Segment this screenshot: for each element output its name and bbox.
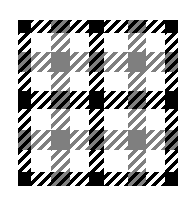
pattern-cell — [31, 72, 51, 91]
pattern-cell — [70, 172, 89, 186]
pattern-cell — [128, 72, 146, 91]
pattern-cell — [70, 33, 89, 52]
pattern-cell — [31, 150, 51, 172]
pattern-cell — [89, 52, 104, 72]
pattern-cell — [70, 20, 89, 33]
pattern-cell — [18, 91, 31, 109]
pattern-cell — [165, 150, 178, 172]
pattern-cell — [104, 91, 128, 109]
pattern-cell — [31, 33, 51, 52]
pattern-cell — [89, 72, 104, 91]
pattern-cell — [31, 109, 51, 130]
pattern-cell — [51, 72, 70, 91]
pattern-cell — [18, 33, 31, 52]
pattern-cell — [128, 20, 146, 33]
pattern-cell — [146, 150, 165, 172]
pattern-cell — [165, 91, 178, 109]
pattern-cell — [165, 109, 178, 130]
pattern-cell — [31, 172, 51, 186]
pattern-cell — [70, 150, 89, 172]
pattern-cell — [104, 130, 128, 150]
pattern-cell — [31, 91, 51, 109]
pattern-cell — [70, 109, 89, 130]
pattern-cell — [89, 130, 104, 150]
image-canvas — [0, 0, 188, 199]
pattern-cell — [165, 72, 178, 91]
pattern-cell — [18, 52, 31, 72]
pattern-cell — [89, 91, 104, 109]
pattern-cell — [51, 52, 70, 72]
pattern-cell — [70, 130, 89, 150]
pattern-cell — [165, 33, 178, 52]
pattern-cell — [89, 150, 104, 172]
pattern-cell — [128, 91, 146, 109]
pattern-cell — [31, 130, 51, 150]
pattern-cell — [51, 150, 70, 172]
pattern-cell — [146, 130, 165, 150]
pattern-cell — [165, 20, 178, 33]
pattern-cell — [146, 91, 165, 109]
pattern-cell — [146, 20, 165, 33]
pattern-cell — [18, 109, 31, 130]
pattern-cell — [104, 20, 128, 33]
pattern-cell — [146, 109, 165, 130]
pattern-cell — [128, 33, 146, 52]
pattern-cell — [146, 72, 165, 91]
pattern-cell — [18, 20, 31, 33]
pattern-cell — [70, 72, 89, 91]
pattern-cell — [51, 109, 70, 130]
pattern-cell — [51, 91, 70, 109]
pattern-cell — [89, 33, 104, 52]
pattern-cell — [128, 130, 146, 150]
pattern-cell — [31, 52, 51, 72]
pattern-cell — [18, 130, 31, 150]
pattern-cell — [70, 52, 89, 72]
pattern-cell — [70, 91, 89, 109]
pattern-cell — [146, 33, 165, 52]
pattern-cell — [18, 172, 31, 186]
pattern-cell — [51, 130, 70, 150]
pattern-cell — [128, 172, 146, 186]
pattern-cell — [104, 52, 128, 72]
pattern-cell — [104, 150, 128, 172]
pattern-cell — [18, 72, 31, 91]
pattern-cell — [104, 109, 128, 130]
pattern-cell — [51, 20, 70, 33]
pattern-cell — [18, 150, 31, 172]
pattern-cell — [146, 172, 165, 186]
pattern-cell — [89, 109, 104, 130]
pattern-cell — [104, 33, 128, 52]
pattern-cell — [51, 33, 70, 52]
pattern-cell — [146, 52, 165, 72]
pattern-cell — [128, 150, 146, 172]
pattern-cell — [89, 20, 104, 33]
pattern-cell — [165, 172, 178, 186]
pattern-cell — [31, 20, 51, 33]
pattern-cell — [165, 130, 178, 150]
pattern-cell — [128, 109, 146, 130]
pattern-cell — [104, 72, 128, 91]
pattern-cell — [128, 52, 146, 72]
pattern-cell — [104, 172, 128, 186]
pattern-cell — [89, 172, 104, 186]
pattern-cell — [51, 172, 70, 186]
gingham-pattern — [18, 20, 178, 186]
pattern-cell — [165, 52, 178, 72]
